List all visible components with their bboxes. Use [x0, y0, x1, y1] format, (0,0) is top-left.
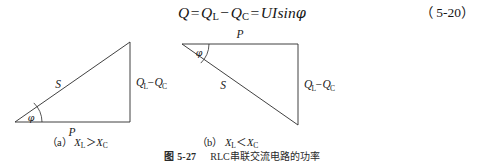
triangle-a-hypotenuse-line [15, 42, 130, 122]
equation-lhs: Q [178, 4, 189, 21]
equation-equals-2: = [249, 4, 261, 21]
equation-equals-1: = [189, 4, 201, 21]
triangle-b-label-p: P [235, 28, 243, 40]
figure-caption: 图 5-27RLC串联交流电路的功率 [0, 150, 484, 161]
equation-rhs-phi: φ [296, 5, 306, 21]
power-triangle-inductive: S P φ Q L − Q C [15, 42, 167, 136]
triangle-b-label-reactive-power: Q L − Q C [304, 78, 335, 93]
equation-rhs-ui: UI [261, 4, 278, 21]
triangle-a-label-reactive-power: Q L − Q C [136, 76, 167, 91]
equation-rhs-sin: sin [277, 4, 295, 21]
equation-5-20: Q=QL−QC=UIsinφ [0, 2, 484, 28]
subcaption-a-relation: ＞ [85, 137, 96, 148]
subcaption-a-x2-sub: C [103, 141, 108, 150]
svg-text:C: C [330, 84, 335, 93]
svg-text:−: − [316, 78, 323, 90]
figure-page: Q=QL−QC=UIsinφ （ 5-20） S P φ [0, 0, 484, 161]
equation-term1-sub: L [212, 11, 218, 22]
subcaption-b-relation: ＜ [236, 137, 247, 148]
figure-area: S P φ Q L − Q C [0, 26, 484, 136]
equation-number: （ 5-20） [420, 2, 474, 24]
equation-term2-base: Q [231, 4, 242, 21]
figure-caption-text: RLC串联交流电路的功率 [210, 151, 319, 161]
triangle-a-label-s: S [55, 78, 61, 90]
svg-text:−: − [148, 76, 155, 88]
triangle-a-label-p: P [67, 126, 75, 136]
power-triangle-capacitive: P S φ Q L − Q C [182, 28, 335, 125]
triangle-a-label-phi: φ [28, 112, 35, 123]
equation-term1-base: Q [201, 4, 212, 21]
figure-caption-number: 图 5-27 [164, 151, 196, 161]
subcaption-b-tag: （b） [197, 137, 222, 148]
svg-text:C: C [162, 82, 167, 91]
equation-minus: − [219, 4, 231, 21]
subcaption-b-x2-sub: C [253, 141, 258, 150]
equation-row: Q=QL−QC=UIsinφ （ 5-20） [0, 2, 484, 26]
subcaption-a-tag: （a） [47, 137, 72, 148]
subcaptions-row: （a） XL＞XC （b） XL＜XC [0, 136, 484, 150]
triangle-b-label-phi: φ [196, 47, 203, 58]
equation-term2-sub: C [242, 11, 249, 22]
triangle-b-label-s: S [220, 79, 226, 91]
